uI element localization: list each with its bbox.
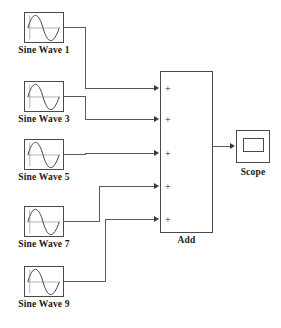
sine-wave-icon [25, 13, 63, 42]
wire-sine7-segment-h1 [64, 221, 100, 222]
wire-sine1-segment-h1 [64, 27, 86, 28]
add-block[interactable]: + + + + + [160, 71, 213, 233]
wire-sine3-arrow-icon [154, 116, 159, 122]
wire-sine3-segment-h1 [64, 96, 86, 97]
wire-sine5-segment-h2 [85, 153, 155, 154]
add-port-2-sign: + [165, 115, 171, 125]
block-diagram-canvas: Sine Wave 1 Sine Wave 3 Sine Wave 5 Sine… [0, 0, 281, 328]
add-port-1-sign: + [165, 84, 171, 94]
wire-sine7-arrow-icon [154, 183, 159, 189]
wire-add-to-scope-arrow-icon [230, 143, 235, 149]
scope-icon [243, 138, 264, 152]
wire-sine7-segment-h2 [99, 186, 155, 187]
scope-block[interactable] [236, 130, 270, 163]
sine-wave-icon [25, 82, 63, 111]
sine-wave-icon [25, 267, 63, 296]
add-block-label: Add [156, 235, 217, 245]
wire-sine1-segment-v [85, 27, 86, 88]
sine-wave-label-9: Sine Wave 9 [4, 299, 84, 309]
wire-sine1-segment-h2 [85, 88, 155, 89]
wire-sine5-segment-h1 [64, 154, 86, 155]
sine-wave-block-1[interactable] [24, 12, 64, 43]
add-port-3-sign: + [165, 149, 171, 159]
sine-wave-block-7[interactable] [24, 206, 64, 237]
wire-sine3-segment-h2 [85, 119, 155, 120]
sine-wave-label-7: Sine Wave 7 [4, 239, 84, 249]
wire-sine3-segment-v [85, 96, 86, 119]
wire-sine9-segment-v [105, 219, 106, 282]
sine-wave-block-5[interactable] [24, 139, 64, 170]
add-port-5-sign: + [165, 215, 171, 225]
wire-sine9-arrow-icon [154, 216, 159, 222]
sine-wave-label-5: Sine Wave 5 [4, 172, 84, 182]
wire-sine1-arrow-icon [154, 85, 159, 91]
wire-sine5-arrow-icon [154, 150, 159, 156]
wire-sine9-segment-h1 [64, 281, 106, 282]
sine-wave-icon [25, 140, 63, 169]
sine-wave-label-3: Sine Wave 3 [4, 114, 84, 124]
wire-sine7-segment-v [99, 186, 100, 222]
sine-wave-block-3[interactable] [24, 81, 64, 112]
add-port-4-sign: + [165, 182, 171, 192]
scope-block-label: Scope [226, 167, 280, 177]
sine-wave-icon [25, 207, 63, 236]
wire-add-to-scope-segment [213, 146, 231, 147]
sine-wave-block-9[interactable] [24, 266, 64, 297]
sine-wave-label-1: Sine Wave 1 [4, 45, 84, 55]
wire-sine9-segment-h2 [105, 219, 155, 220]
